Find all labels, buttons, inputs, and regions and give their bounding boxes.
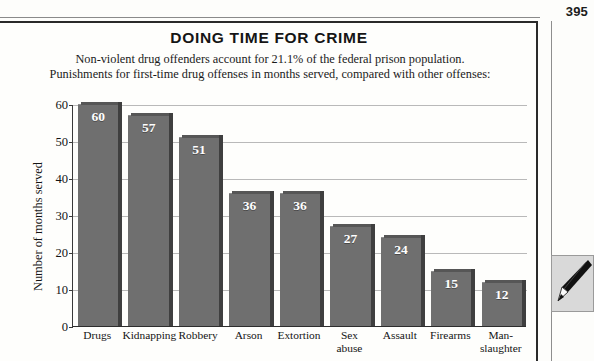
bar-series: 605751363627241512: [73, 104, 527, 326]
bar: 27: [330, 226, 370, 326]
bar-value-label: 36: [280, 198, 320, 214]
y-tick-label: 60: [55, 98, 68, 113]
page-number: 395: [566, 4, 588, 19]
x-tick-label-line: Assault: [375, 329, 425, 342]
bar-top-bevel: [434, 269, 475, 272]
bar: 36: [280, 193, 320, 326]
bar-side-shading: [522, 280, 526, 326]
bar: 15: [431, 271, 471, 327]
bar-value-label: 57: [128, 120, 168, 136]
x-tick-label: Firearms: [425, 329, 475, 342]
figure-container: DOING TIME FOR CRIME Non-violent drug of…: [0, 21, 538, 361]
y-tick-label: 10: [55, 283, 68, 298]
bar-value-label: 51: [179, 142, 219, 158]
bar-top-bevel: [131, 113, 172, 116]
x-tick-label-line: Man-: [476, 329, 526, 342]
x-tick-label: Extortion: [274, 329, 324, 342]
x-tick-label: Arson: [223, 329, 273, 342]
x-tick-label-line: Arson: [223, 329, 273, 342]
y-tick-label: 20: [55, 246, 68, 261]
bar: 12: [482, 282, 522, 326]
bar-side-shading: [320, 191, 324, 326]
y-tick-label: 30: [55, 209, 68, 224]
bar: 36: [229, 193, 269, 326]
bar-top-bevel: [182, 135, 223, 138]
x-tick-label-line: Robbery: [173, 329, 223, 342]
bar-top-bevel: [485, 280, 526, 283]
y-tick-mark: [69, 327, 73, 328]
y-tick-label: 40: [55, 172, 68, 187]
y-tick-label: 0: [62, 320, 68, 335]
bar-side-shading: [169, 113, 173, 326]
bar-top-bevel: [81, 102, 122, 105]
plot-area: 0102030405060 605751363627241512: [72, 105, 526, 327]
bar-side-shading: [270, 191, 274, 326]
bar-value-label: 24: [381, 242, 421, 258]
x-axis-labels: DrugsKidnappingRobberyArsonExtortionSexa…: [72, 329, 526, 361]
bar: 57: [128, 115, 168, 326]
y-tick-label: 50: [55, 135, 68, 150]
bar: 60: [78, 104, 118, 326]
x-tick-label-line: Extortion: [274, 329, 324, 342]
bar-side-shading: [471, 269, 475, 327]
x-tick-label: Robbery: [173, 329, 223, 342]
bar-side-shading: [219, 135, 223, 326]
pencil-icon: [551, 255, 594, 312]
pencil-icon-glyph: [552, 256, 593, 311]
bar: 24: [381, 237, 421, 326]
x-tick-label: Sexabuse: [324, 329, 374, 354]
bar-side-shading: [371, 224, 375, 326]
header-rule: [0, 17, 540, 18]
bar-value-label: 15: [431, 276, 471, 292]
bar-value-label: 60: [78, 109, 118, 125]
x-tick-label-line: Sex: [324, 329, 374, 342]
x-tick-label: Kidnapping: [122, 329, 172, 342]
bar-top-bevel: [232, 191, 273, 194]
x-tick-label-line: Kidnapping: [122, 329, 172, 342]
x-tick-label-line: Drugs: [72, 329, 122, 342]
page-canvas: 395 DOING TIME FOR CRIME Non-violent dru…: [0, 0, 594, 361]
bar-side-shading: [421, 235, 425, 326]
x-tick-label-line: slaughter: [476, 342, 526, 355]
x-tick-label-line: Firearms: [425, 329, 475, 342]
x-tick-label: Drugs: [72, 329, 122, 342]
bar-value-label: 27: [330, 231, 370, 247]
x-tick-label-line: abuse: [324, 342, 374, 355]
x-tick-label: Man-slaughter: [476, 329, 526, 354]
bar-top-bevel: [333, 224, 374, 227]
bar-value-label: 36: [229, 198, 269, 214]
bar-top-bevel: [283, 191, 324, 194]
bar-side-shading: [118, 102, 122, 326]
bar-top-bevel: [384, 235, 425, 238]
y-axis-label: Number of months served: [31, 127, 46, 327]
bar-value-label: 12: [482, 287, 522, 303]
plot-wrapper: Number of months served 0102030405060 60…: [0, 23, 538, 361]
x-tick-label: Assault: [375, 329, 425, 342]
bar: 51: [179, 137, 219, 326]
